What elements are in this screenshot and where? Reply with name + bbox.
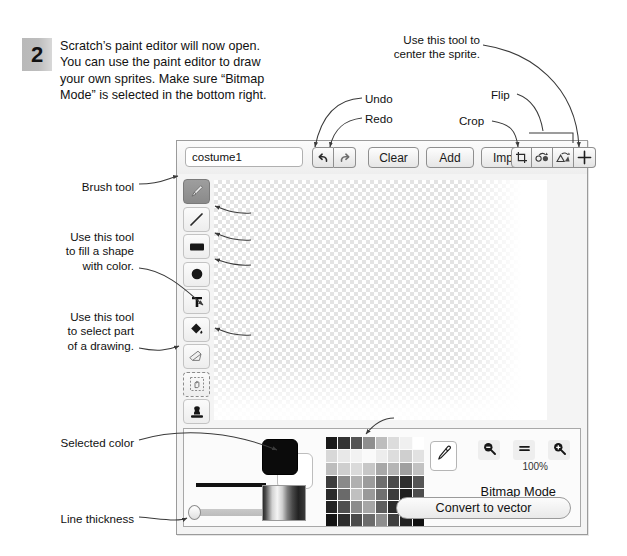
color-swatch[interactable] — [326, 476, 337, 488]
color-swatch[interactable] — [376, 450, 387, 462]
select-tool[interactable] — [183, 372, 210, 397]
annotation-flip: Flip — [491, 88, 510, 102]
color-swatch[interactable] — [351, 437, 362, 449]
color-swatch[interactable] — [338, 514, 349, 526]
color-swatch[interactable] — [413, 450, 424, 462]
color-swatch[interactable] — [351, 489, 362, 501]
color-swatch[interactable] — [351, 463, 362, 475]
brush-tool[interactable] — [183, 179, 210, 204]
selected-color-swatch[interactable] — [262, 439, 298, 475]
annotation-center-sprite-line-1: Use this tool to — [348, 33, 480, 47]
color-swatch[interactable] — [363, 489, 374, 501]
color-swatch[interactable] — [388, 463, 399, 475]
color-swatch[interactable] — [388, 489, 399, 501]
color-swatch[interactable] — [338, 476, 349, 488]
color-swatch[interactable] — [326, 514, 337, 526]
color-swatch[interactable] — [376, 463, 387, 475]
paintbrush-icon — [188, 183, 205, 200]
color-swatch[interactable] — [326, 463, 337, 475]
color-swatch[interactable] — [413, 476, 424, 488]
color-swatch[interactable] — [400, 450, 411, 462]
crop-button[interactable] — [511, 147, 532, 168]
undo-icon — [316, 151, 330, 165]
color-swatch[interactable] — [388, 476, 399, 488]
stamp-tool[interactable] — [183, 399, 210, 424]
flip-vertical-button[interactable] — [553, 147, 574, 168]
color-swatch[interactable] — [363, 437, 374, 449]
color-swatch[interactable] — [326, 501, 337, 513]
annotation-line-thickness: Line thickness — [10, 512, 134, 526]
redo-icon — [338, 151, 352, 165]
costume-name-input[interactable] — [185, 147, 303, 167]
zoom-reset-button[interactable] — [513, 440, 535, 460]
color-swatch[interactable] — [363, 450, 374, 462]
color-swatch[interactable] — [413, 463, 424, 475]
color-swatch[interactable] — [388, 514, 399, 526]
set-costume-center-button[interactable] — [574, 147, 596, 168]
color-swatch[interactable] — [400, 463, 411, 475]
annotation-select-tool-line-2: to select part — [10, 324, 134, 338]
step-line-4: Mode” is selected in the bottom right. — [60, 87, 290, 103]
color-swatch[interactable] — [376, 437, 387, 449]
color-swatch[interactable] — [326, 489, 337, 501]
rectangle-tool[interactable] — [183, 234, 210, 259]
text-t-icon — [189, 294, 205, 310]
ellipse-tool[interactable] — [183, 262, 210, 287]
convert-to-vector-button[interactable]: Convert to vector — [396, 497, 571, 519]
stamp-icon — [189, 404, 205, 420]
color-swatch[interactable] — [388, 437, 399, 449]
color-swatch[interactable] — [338, 489, 349, 501]
add-button[interactable]: Add — [426, 147, 474, 168]
annotation-brush-tool: Brush tool — [10, 180, 134, 194]
gradient-strip[interactable] — [262, 485, 306, 521]
color-swatch[interactable] — [351, 514, 362, 526]
clear-button[interactable]: Clear — [368, 147, 419, 168]
color-swatch[interactable] — [351, 476, 362, 488]
color-swatch[interactable] — [338, 450, 349, 462]
paint-bucket-icon — [188, 321, 205, 338]
select-marquee-icon — [189, 376, 205, 392]
annotation-select-tool-line-1: Use this tool — [10, 310, 134, 324]
drawing-canvas[interactable] — [214, 180, 547, 420]
color-swatch[interactable] — [376, 501, 387, 513]
crop-icon — [515, 151, 528, 164]
annotation-fill-tool-line-1: Use this tool — [10, 230, 134, 244]
color-swatch[interactable] — [400, 476, 411, 488]
color-swatch[interactable] — [326, 437, 337, 449]
color-swatch[interactable] — [363, 476, 374, 488]
color-swatch[interactable] — [363, 463, 374, 475]
annotation-select-tool-line-3: of a drawing. — [10, 339, 134, 353]
annotation-select-tool: Use this tool to select part of a drawin… — [10, 310, 134, 353]
canvas-fade-bottom — [214, 360, 547, 420]
text-tool[interactable] — [183, 289, 210, 314]
color-swatch[interactable] — [326, 450, 337, 462]
zoom-in-button[interactable] — [548, 440, 570, 460]
redo-button[interactable] — [334, 147, 356, 168]
color-swatch[interactable] — [376, 489, 387, 501]
undo-button[interactable] — [312, 147, 334, 168]
color-swatch[interactable] — [388, 450, 399, 462]
color-swatch[interactable] — [351, 450, 362, 462]
line-tool[interactable] — [183, 207, 210, 232]
line-thickness-slider-knob[interactable] — [188, 505, 201, 520]
step-instruction-text: Scratch’s paint editor will now open. Yo… — [60, 38, 290, 104]
annotation-undo: Undo — [365, 92, 393, 106]
color-swatch[interactable] — [376, 476, 387, 488]
color-swatch[interactable] — [376, 514, 387, 526]
color-swatch[interactable] — [338, 463, 349, 475]
color-swatch[interactable] — [338, 437, 349, 449]
color-swatch[interactable] — [400, 437, 411, 449]
color-swatch[interactable] — [363, 514, 374, 526]
flip-horizontal-button[interactable] — [532, 147, 553, 168]
step-line-3: your own sprites. Make sure “Bitmap — [60, 71, 290, 87]
flip-horizontal-icon — [535, 151, 549, 164]
color-swatch[interactable] — [363, 501, 374, 513]
color-swatch[interactable] — [338, 501, 349, 513]
zoom-out-button[interactable] — [478, 440, 500, 460]
eyedropper-button[interactable] — [430, 441, 457, 471]
eraser-tool[interactable] — [183, 344, 210, 369]
fill-tool[interactable] — [183, 317, 210, 342]
color-swatch[interactable] — [413, 437, 424, 449]
step-number-badge: 2 — [22, 38, 52, 71]
color-swatch[interactable] — [351, 501, 362, 513]
